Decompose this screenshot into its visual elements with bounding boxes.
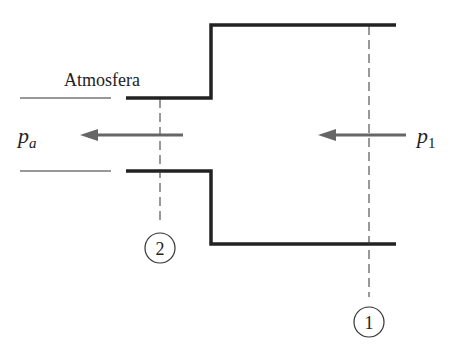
- arrow-left-icon: [80, 129, 98, 141]
- arrow-left-icon: [318, 129, 336, 141]
- inlet-flow-arrow: [318, 129, 406, 141]
- section-1-label: 1: [365, 313, 374, 333]
- exit-flow-arrow: [80, 129, 183, 141]
- pa-subscript: a: [29, 135, 37, 151]
- pressure-p1-label: p1: [415, 123, 436, 151]
- pa-main: p: [16, 123, 29, 148]
- atmosphere-label: Atmosfera: [64, 70, 140, 90]
- upper-pipe-wall: [126, 25, 396, 98]
- pressure-pa-label: pa: [16, 123, 37, 151]
- pipe-diagram: Atmosfera pa p1 2 1: [0, 0, 450, 353]
- lower-pipe-wall: [126, 171, 396, 244]
- p1-main: p: [415, 123, 428, 148]
- p1-subscript: 1: [428, 135, 436, 151]
- section-2-label: 2: [156, 239, 165, 259]
